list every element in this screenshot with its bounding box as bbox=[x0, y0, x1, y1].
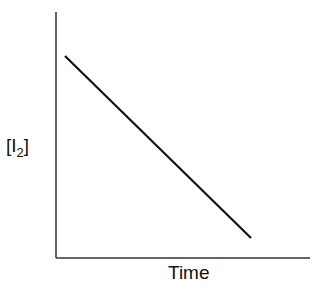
data-line-i2 bbox=[65, 56, 251, 238]
y-axis-label: [I2] bbox=[6, 136, 29, 159]
chart-canvas bbox=[0, 0, 320, 294]
x-axis-label: Time bbox=[168, 262, 210, 284]
